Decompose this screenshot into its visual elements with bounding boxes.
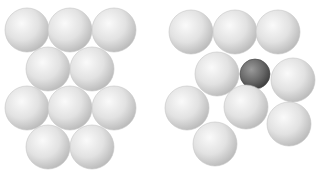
light-sphere	[92, 8, 136, 52]
dark-sphere	[240, 59, 270, 89]
light-sphere	[193, 122, 237, 166]
light-sphere	[271, 58, 315, 102]
light-sphere	[165, 86, 209, 130]
light-sphere	[256, 10, 300, 54]
light-sphere	[5, 86, 49, 130]
sphere-packing-diagram	[0, 0, 321, 176]
light-sphere	[5, 8, 49, 52]
group-close-packed-layer	[5, 8, 136, 169]
light-sphere	[70, 47, 114, 91]
light-sphere	[267, 102, 311, 146]
diagram-canvas	[0, 0, 321, 176]
light-sphere	[26, 125, 70, 169]
light-sphere	[48, 86, 92, 130]
light-sphere	[92, 86, 136, 130]
light-sphere	[169, 10, 213, 54]
light-sphere	[70, 125, 114, 169]
light-sphere	[224, 85, 268, 129]
light-sphere	[213, 10, 257, 54]
light-sphere	[48, 8, 92, 52]
group-layer-with-impurity	[165, 10, 315, 166]
light-sphere	[26, 47, 70, 91]
